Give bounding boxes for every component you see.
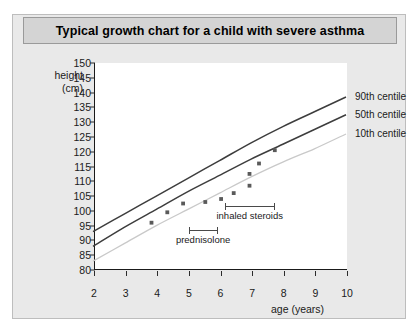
x-tick-mark [315,271,316,276]
centile-label: 10th centile [355,128,406,139]
centile-curve [93,115,346,247]
x-tick-mark [157,271,158,276]
data-point [248,184,252,188]
x-tick-label: 8 [281,287,287,299]
x-tick-label: 2 [91,287,97,299]
data-point [273,148,277,152]
x-tick-label: 3 [123,287,129,299]
data-point [204,200,208,204]
data-point [258,162,262,166]
annotation-range-end [189,227,190,234]
annotation-label: inhaled steroids [216,210,283,221]
x-tick-label: 7 [249,287,255,299]
annotation-range-end [225,203,226,210]
annotation-range-bar [189,230,217,231]
data-point [220,197,224,201]
annotation-range-end [274,203,275,210]
centile-label: 90th centile [355,91,406,102]
x-tick-mark [189,271,190,276]
x-tick-label: 9 [312,287,318,299]
data-point [248,172,252,176]
figure-panel: Typical growth chart for a child with se… [12,14,406,319]
data-point [232,191,236,195]
data-point [166,210,170,214]
x-tick-label: 6 [218,287,224,299]
x-tick-mark [252,271,253,276]
x-tick-label: 4 [154,287,160,299]
x-tick-mark [221,271,222,276]
x-tick-mark [284,271,285,276]
x-axis-title: age (years) [271,303,324,315]
annotation-range-bar [225,206,274,207]
data-point [182,202,186,206]
data-point [150,221,154,225]
annotation-label: prednisolone [176,234,230,245]
x-tick-mark [94,271,95,276]
x-tick-mark [347,271,348,276]
x-tick-mark [126,271,127,276]
x-tick-label: 10 [341,287,353,299]
centile-label: 50th centile [355,109,406,120]
x-tick-label: 5 [186,287,192,299]
annotation-range-end [217,227,218,234]
